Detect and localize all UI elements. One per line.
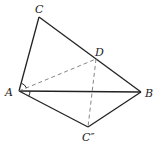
label-C: C bbox=[35, 3, 44, 16]
segment-CB bbox=[39, 17, 141, 92]
label-C2: C″ bbox=[82, 131, 95, 144]
segment-AB bbox=[19, 91, 141, 92]
label-A: A bbox=[4, 86, 13, 99]
label-D: D bbox=[94, 46, 104, 59]
segment-C2B bbox=[88, 92, 141, 127]
geometry-diagram: C D A B C″ bbox=[0, 0, 158, 148]
label-B: B bbox=[144, 87, 153, 100]
segment-DC2-dashed bbox=[88, 59, 96, 127]
segment-AC bbox=[19, 17, 39, 91]
angle-mark-CAD bbox=[22, 83, 27, 88]
segment-AC2 bbox=[19, 91, 88, 127]
angle-mark-BAC2 bbox=[29, 91, 30, 96]
segment-AD-dashed bbox=[19, 59, 96, 91]
